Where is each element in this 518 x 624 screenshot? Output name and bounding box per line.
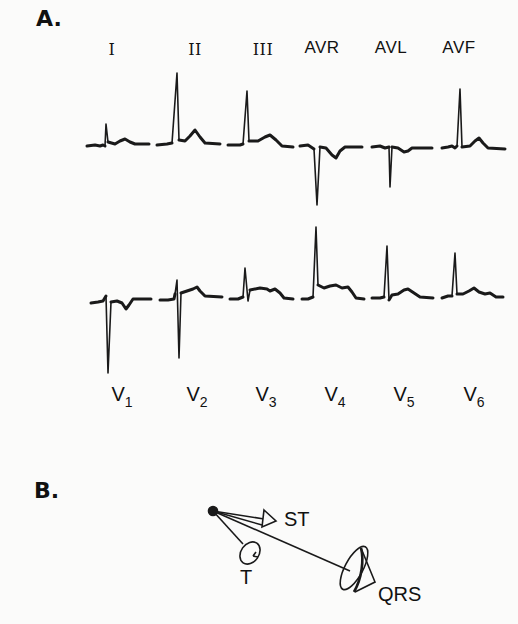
- lead-label-v6: V6: [449, 383, 499, 410]
- trace-lead-i: [87, 124, 149, 146]
- qrs-label: QRS: [378, 583, 421, 606]
- trace-lead-v3: [230, 268, 293, 301]
- trace-lead-avr: [300, 145, 362, 205]
- lead-label-v1: V1: [97, 383, 147, 410]
- trace-lead-v5: [372, 246, 433, 300]
- trace-lead-ii: [157, 73, 220, 145]
- trace-lead-v4: [302, 227, 364, 299]
- t-label: T: [240, 566, 252, 589]
- trace-lead-v2: [160, 280, 222, 358]
- trace-lead-avf: [442, 89, 505, 149]
- trace-lead-v1: [91, 296, 151, 373]
- lead-label-v5: V5: [379, 383, 429, 410]
- trace-lead-avl: [372, 146, 432, 187]
- lead-label-v2: V2: [172, 383, 222, 410]
- trace-lead-v6: [442, 253, 503, 298]
- st-label: ST: [284, 508, 310, 531]
- trace-lead-iii: [228, 91, 293, 147]
- ecg-traces: [0, 0, 518, 624]
- panel-b-label: B.: [34, 478, 59, 503]
- t-vector: [213, 511, 264, 568]
- lead-label-v3: V3: [241, 383, 291, 410]
- lead-label-v4: V4: [310, 383, 360, 410]
